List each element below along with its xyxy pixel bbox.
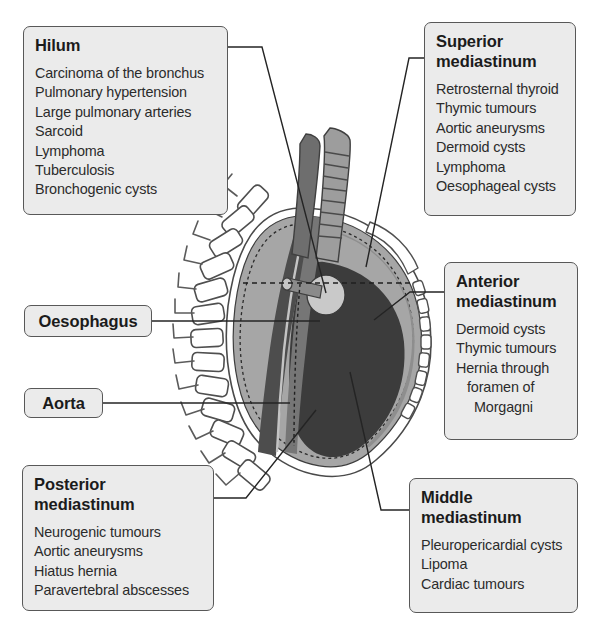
- diagram-canvas: Hilum Carcinoma of the bronchus Pulmonar…: [0, 0, 589, 628]
- list-item: Pleuropericardial cysts: [421, 536, 566, 555]
- bronchus-lumen: [282, 278, 292, 290]
- list-item: Lymphoma: [35, 142, 216, 161]
- list-item: Sarcoid: [35, 122, 216, 141]
- list-item: Large pulmonary arteries: [35, 103, 216, 122]
- list-item: Lipoma: [421, 555, 566, 574]
- label-aorta[interactable]: Aorta: [24, 388, 103, 418]
- list-item: foramen of: [456, 378, 566, 397]
- list-item: Pulmonary hypertension: [35, 83, 216, 102]
- label-aorta-text: Aorta: [42, 394, 85, 413]
- list-item: Hiatus hernia: [34, 562, 202, 581]
- list-item: Aortic aneurysms: [436, 119, 564, 138]
- callout-superior-mediastinum[interactable]: Superior mediastinum Retrosternal thyroi…: [424, 22, 576, 216]
- callout-middle-list: Pleuropericardial cysts Lipoma Cardiac t…: [421, 536, 566, 594]
- callout-posterior-title: Posterior mediastinum: [34, 474, 202, 514]
- list-item: Tuberculosis: [35, 161, 216, 180]
- callout-middle-title: Middle mediastinum: [421, 487, 566, 527]
- callout-superior-list: Retrosternal thyroid Thymic tumours Aort…: [436, 80, 564, 196]
- callout-posterior-list: Neurogenic tumours Aortic aneurysms Hiat…: [34, 523, 202, 601]
- list-item: Cardiac tumours: [421, 575, 566, 594]
- list-item: Thymic tumours: [436, 99, 564, 118]
- list-item: Hernia through: [456, 359, 566, 378]
- label-oesophagus-text: Oesophagus: [39, 312, 138, 331]
- list-item: Aortic aneurysms: [34, 542, 202, 561]
- list-item: Neurogenic tumours: [34, 523, 202, 542]
- callout-superior-title: Superior mediastinum: [436, 31, 564, 71]
- list-item: Oesophageal cysts: [436, 177, 564, 196]
- callout-posterior-mediastinum[interactable]: Posterior mediastinum Neurogenic tumours…: [22, 465, 214, 611]
- callout-middle-mediastinum[interactable]: Middle mediastinum Pleuropericardial cys…: [409, 478, 578, 613]
- list-item: Bronchogenic cysts: [35, 180, 216, 199]
- list-item: Retrosternal thyroid: [436, 80, 564, 99]
- list-item: Paravertebral abscesses: [34, 581, 202, 600]
- callout-anterior-list: Dermoid cysts Thymic tumours Hernia thro…: [456, 320, 566, 417]
- list-item: Dermoid cysts: [456, 320, 566, 339]
- list-item: Dermoid cysts: [436, 138, 564, 157]
- label-oesophagus[interactable]: Oesophagus: [24, 305, 152, 337]
- list-item: Morgagni: [456, 398, 566, 417]
- callout-anterior-mediastinum[interactable]: Anterior mediastinum Dermoid cysts Thymi…: [444, 262, 578, 440]
- callout-hilum[interactable]: Hilum Carcinoma of the bronchus Pulmonar…: [23, 26, 228, 215]
- list-item: Lymphoma: [436, 158, 564, 177]
- callout-hilum-title: Hilum: [35, 35, 216, 55]
- callout-hilum-list: Carcinoma of the bronchus Pulmonary hype…: [35, 64, 216, 200]
- list-item: Carcinoma of the bronchus: [35, 64, 216, 83]
- list-item: Thymic tumours: [456, 339, 566, 358]
- callout-anterior-title: Anterior mediastinum: [456, 271, 566, 311]
